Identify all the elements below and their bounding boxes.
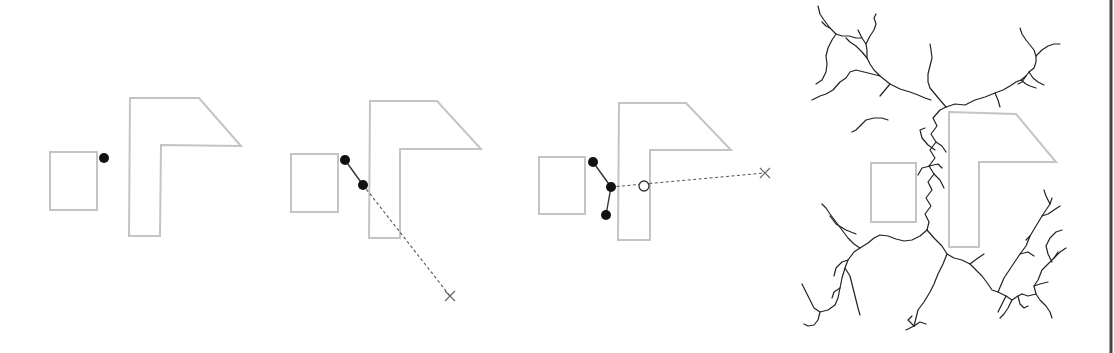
tree-branch <box>880 84 890 96</box>
tree-branch <box>852 118 888 132</box>
tree-branch <box>1029 72 1044 85</box>
tree-node <box>588 157 598 167</box>
tree-branch <box>1044 190 1050 204</box>
tree-branch <box>822 204 860 248</box>
l-shape-obstacle <box>129 98 241 236</box>
tree-branch <box>928 44 946 107</box>
panel-2-extend <box>291 101 481 301</box>
tree-branch <box>936 142 946 152</box>
tree-branch <box>816 34 836 84</box>
rrt-diagram <box>0 0 1114 353</box>
tree-branch <box>802 230 927 312</box>
tree-branch <box>866 14 876 44</box>
tree-node <box>601 210 611 220</box>
tree-branch <box>908 316 914 326</box>
panels-group <box>50 98 1056 301</box>
extension-ray <box>363 185 450 296</box>
tree-branch <box>834 260 848 276</box>
tree-branch <box>925 107 946 230</box>
tree-branch <box>906 326 914 330</box>
extension-ray <box>611 173 765 187</box>
tree-branch <box>929 164 942 168</box>
tree-branch <box>812 70 880 100</box>
tree-branch <box>858 30 931 100</box>
tree-branch <box>998 296 1006 312</box>
l-shape-obstacle <box>618 103 731 240</box>
tree-node <box>358 180 368 190</box>
tree-branch <box>1020 252 1034 256</box>
tree-branch <box>946 28 1036 107</box>
tree-branch <box>1036 44 1060 56</box>
rect-obstacle <box>50 152 97 210</box>
tree-branch <box>845 268 860 315</box>
collision-point <box>639 181 649 191</box>
tree-node <box>99 153 109 163</box>
tree-branch <box>998 198 1052 292</box>
tree-branch <box>1022 294 1052 318</box>
tree-branch <box>970 254 984 264</box>
rect-obstacle <box>539 157 585 214</box>
tree-node <box>606 182 616 192</box>
rect-obstacle <box>871 163 916 222</box>
panel-1-initial <box>50 98 241 236</box>
random-sample-x-icon <box>445 291 455 301</box>
tree-branch <box>947 254 1022 300</box>
tree-branch <box>818 6 862 38</box>
tree-branch <box>1000 300 1012 318</box>
l-shape-obstacle <box>949 112 1056 247</box>
tree-branch <box>918 166 930 175</box>
tree-branch <box>934 174 944 188</box>
tree-node <box>340 155 350 165</box>
tree-branch <box>914 230 947 326</box>
l-shape-obstacle <box>369 101 481 238</box>
tree-branch <box>914 322 926 326</box>
tree-branch <box>1021 80 1036 88</box>
rrt-full-tree <box>802 6 1066 330</box>
rect-obstacle <box>291 154 338 212</box>
panel-4-full-tree <box>871 112 1056 247</box>
tree-branch <box>1054 248 1066 258</box>
panel-3-collision <box>539 103 770 240</box>
tree-branch <box>995 93 1000 107</box>
tree-branch <box>1018 296 1028 308</box>
tree-branch <box>804 312 820 326</box>
